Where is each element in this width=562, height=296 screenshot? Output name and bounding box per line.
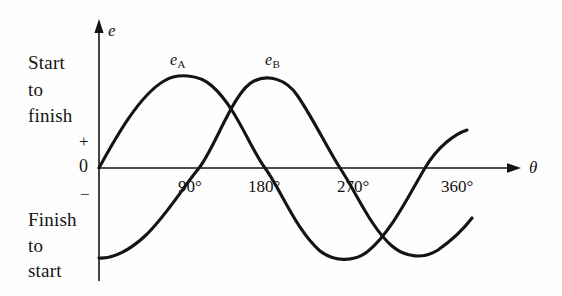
- plus-sign-label: +: [79, 133, 89, 150]
- annotation-start: Start: [28, 53, 65, 72]
- x-tick-label-270: 270°: [337, 178, 369, 195]
- x-axis: [99, 163, 521, 173]
- curve-label-e-b: eB: [265, 52, 279, 68]
- y-axis-label: e: [108, 22, 116, 39]
- annotation-to-lower: to: [28, 236, 43, 255]
- annotation-finish: finish: [28, 106, 72, 125]
- x-tick-label-90: 90°: [178, 178, 202, 195]
- curve-label-e-b-subscript: B: [273, 58, 280, 70]
- annotation-start-lower: start: [28, 261, 62, 280]
- x-tick-label-180: 180°: [248, 178, 280, 195]
- curve-label-e-b-base: e: [265, 51, 272, 68]
- curve-label-e-a-subscript: A: [178, 58, 186, 70]
- sinusoid-figure: e θ + 0 − Start to finish Finish to star…: [0, 0, 562, 296]
- minus-sign-label: −: [80, 186, 90, 203]
- x-tick-label-360: 360°: [441, 178, 473, 195]
- curve-label-e-a-base: e: [170, 51, 177, 68]
- zero-label: 0: [79, 157, 88, 175]
- annotation-finish-lower: Finish: [28, 210, 77, 229]
- x-axis-label: θ: [529, 159, 537, 176]
- y-axis: [94, 19, 103, 281]
- annotation-to-upper: to: [28, 80, 43, 99]
- curve-label-e-a: eA: [170, 52, 185, 68]
